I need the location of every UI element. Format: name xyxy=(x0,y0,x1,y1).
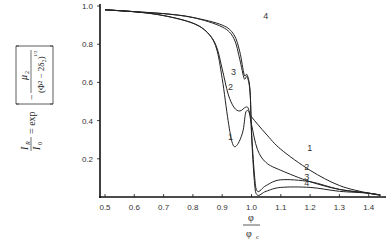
x-label-numerator: φ xyxy=(248,212,254,223)
x-tick-label: 0.8 xyxy=(187,203,199,212)
y-tick-label: 0.6 xyxy=(82,78,94,87)
x-tick-label: 0.9 xyxy=(217,203,229,212)
x-tick-label: 1.3 xyxy=(334,203,346,212)
y-lhs-den: I xyxy=(31,146,42,151)
curve-label: 4 xyxy=(304,178,309,188)
x-tick-label: 1.2 xyxy=(305,203,317,212)
x-label-denominator: φ xyxy=(246,228,252,239)
x-tick-label: 0.5 xyxy=(99,203,111,212)
y-axis-label: I R I 0 = exp − μ 2 (Φ² − 2δ₂) 1/2 xyxy=(16,46,53,151)
curves xyxy=(105,10,380,196)
y-den: (Φ² − 2δ₂) xyxy=(36,56,46,93)
x-axis-label: φ φ c xyxy=(243,212,260,240)
y-lhs-num-sub: R xyxy=(25,141,31,146)
y-mu: μ xyxy=(18,75,29,81)
curve-label: 2 xyxy=(304,162,309,172)
curve-4 xyxy=(105,10,380,196)
y-lhs-den-sub: 0 xyxy=(37,142,43,145)
y-tick-label: 0.2 xyxy=(82,155,94,164)
curve-3 xyxy=(105,10,380,195)
y-den-exp: 1/2 xyxy=(33,50,38,57)
curve-label: 3 xyxy=(231,67,236,77)
y-tick-label: 0.4 xyxy=(82,117,94,126)
x-label-denominator-sub: c xyxy=(256,234,259,240)
chart: 0.50.60.70.80.91.01.11.21.31.40.20.40.60… xyxy=(0,0,388,244)
y-tick-label: 0.8 xyxy=(82,40,94,49)
x-tick-label: 1.1 xyxy=(275,203,287,212)
y-minus: − xyxy=(26,94,37,100)
y-eq: = exp xyxy=(26,111,37,134)
x-tick-label: 0.7 xyxy=(158,203,170,212)
curve-label: 2 xyxy=(228,82,233,92)
y-lhs-num: I xyxy=(19,146,30,151)
curve-1 xyxy=(105,10,380,195)
y-mu-sub: 2 xyxy=(24,71,30,74)
curve-label: 4 xyxy=(263,11,268,21)
curve-label: 1 xyxy=(228,132,233,142)
curve-label: 1 xyxy=(307,143,312,153)
x-tick-label: 1.0 xyxy=(246,203,258,212)
x-tick-label: 0.6 xyxy=(129,203,141,212)
x-tick-label: 1.4 xyxy=(363,203,375,212)
y-tick-label: 1.0 xyxy=(82,2,94,11)
curve-labels: 12341234 xyxy=(228,11,312,187)
curve-2 xyxy=(105,10,380,195)
